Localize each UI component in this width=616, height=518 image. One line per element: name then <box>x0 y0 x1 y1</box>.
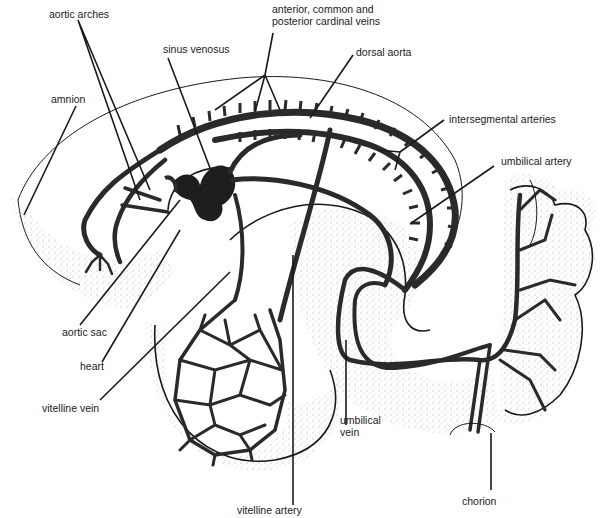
embryo-circulation-diagram: aortic arches anterior, common and poste… <box>0 0 616 518</box>
label-cardinal-veins: anterior, common and posterior cardinal … <box>272 3 380 27</box>
tissue-stipple <box>12 175 596 471</box>
diagram-illustration <box>0 0 616 518</box>
label-umbilical-vein: umbilical vein <box>340 414 381 438</box>
label-vitelline-artery: vitelline artery <box>237 504 302 516</box>
label-vitelline-vein: vitelline vein <box>42 402 99 414</box>
label-sinus-venosus: sinus venosus <box>163 43 230 55</box>
label-intersegmental-arteries: intersegmental arteries <box>449 113 556 125</box>
label-aortic-sac: aortic sac <box>62 326 107 338</box>
label-chorion: chorion <box>462 495 496 507</box>
label-aortic-arches: aortic arches <box>49 8 109 20</box>
heart-shape <box>165 166 235 222</box>
label-umbilical-artery: umbilical artery <box>501 155 572 167</box>
label-dorsal-aorta: dorsal aorta <box>356 46 411 58</box>
label-amnion: amnion <box>51 93 85 105</box>
label-heart: heart <box>80 360 104 372</box>
